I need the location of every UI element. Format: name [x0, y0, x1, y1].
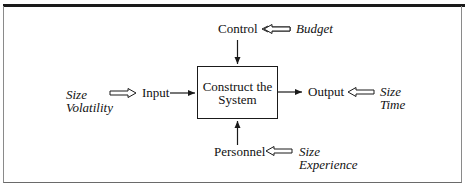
input-label: Input	[142, 86, 169, 99]
output-influence-time: Time	[380, 98, 405, 111]
control-label: Control	[218, 22, 258, 35]
personnel-influence-experience: Experience	[299, 158, 357, 171]
process-label-line2: System	[203, 93, 273, 106]
process-box: Construct the System	[197, 66, 278, 119]
output-hollow-arrow	[348, 88, 374, 97]
personnel-hollow-arrow	[266, 147, 292, 156]
output-label: Output	[308, 85, 344, 98]
budget-hollow-arrow	[262, 25, 290, 34]
input-influence-volatility: Volatility	[66, 101, 113, 114]
budget-label: Budget	[296, 22, 333, 35]
personnel-label: Personnel	[214, 145, 265, 158]
process-label-line1: Construct the	[203, 80, 273, 93]
input-hollow-arrow	[110, 89, 136, 98]
